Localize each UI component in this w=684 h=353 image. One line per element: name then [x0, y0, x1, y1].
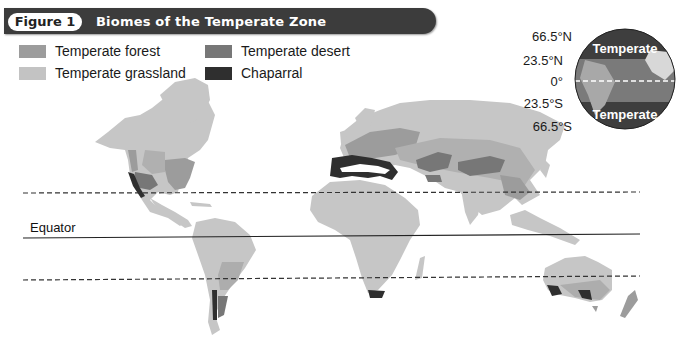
- world-map: Temperate Temperate: [0, 0, 684, 353]
- india: [462, 195, 482, 225]
- british-isles: [340, 130, 347, 144]
- sa-temperate-grassland: [218, 262, 244, 290]
- lat-label-23n: 23.5°N: [503, 53, 563, 68]
- globe-north-band-label: Temperate: [593, 41, 658, 56]
- tropic-of-cancer-line: [23, 192, 640, 193]
- madagascar: [415, 256, 425, 280]
- equator-line: [23, 234, 640, 238]
- equator-label: Equator: [30, 220, 76, 235]
- lat-label-66s: 66.5°S: [512, 119, 572, 134]
- iran-desert: [425, 175, 442, 182]
- new-zealand: [620, 290, 638, 318]
- sa-temperate-desert: [218, 296, 228, 318]
- tasmania: [592, 306, 598, 312]
- globe-south-band-label: Temperate: [593, 107, 658, 122]
- lat-label-0: 0°: [503, 74, 563, 89]
- lat-label-66n: 66.5°N: [512, 29, 572, 44]
- south-africa-chaparral: [368, 290, 385, 298]
- land-masses: [95, 78, 638, 335]
- caribbean: [190, 202, 212, 207]
- southeast-asia: [510, 210, 580, 245]
- lat-label-23s: 23.5°S: [503, 96, 563, 111]
